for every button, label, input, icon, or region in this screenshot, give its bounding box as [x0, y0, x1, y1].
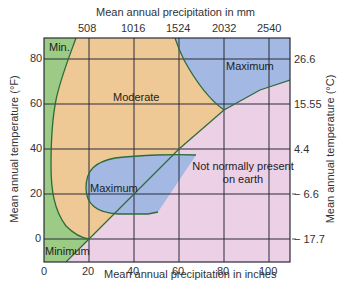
- y-left-axis-title: Mean annual temperature (°F): [8, 69, 20, 229]
- region-label-maximum-upper: Maximum: [226, 60, 274, 73]
- region-label-maximum-middle: Maximum: [90, 182, 138, 195]
- region-label-minimum-lower: Minimum: [45, 245, 90, 258]
- x-top-tick: 508: [78, 22, 96, 34]
- y-right-tick: 4.4: [294, 143, 309, 155]
- x-top-tick: 2540: [257, 22, 281, 34]
- region-label-not-present-line2: on earth: [223, 173, 263, 185]
- y-right-tick: − 17.7: [294, 233, 325, 245]
- x-top-tick: 2032: [212, 22, 236, 34]
- region-label-moderate: Moderate: [113, 91, 159, 104]
- y-right-axis-title: Mean annual temperature (°C): [324, 69, 336, 229]
- x-bottom-tick: 60: [172, 265, 184, 277]
- y-left-tick: 40: [30, 142, 42, 154]
- x-bottom-tick: 80: [217, 265, 229, 277]
- x-top-axis-title: Mean annual precipitation in mm: [96, 6, 255, 18]
- region-label-min: Min.: [49, 41, 70, 54]
- region-label-not-present-line1: Not normally present: [192, 160, 294, 172]
- y-right-tick: − 6.6: [294, 188, 319, 200]
- x-bottom-tick: 40: [127, 265, 139, 277]
- x-bottom-tick: 100: [259, 265, 277, 277]
- x-bottom-tick: 20: [82, 265, 94, 277]
- y-right-tick: 26.6: [294, 53, 315, 65]
- y-left-tick: 60: [30, 97, 42, 109]
- y-left-tick: 0: [35, 232, 41, 244]
- region-label-not-present: Not normally present on earth: [188, 160, 298, 186]
- y-left-tick: 80: [30, 52, 42, 64]
- x-top-tick: 1016: [121, 22, 145, 34]
- x-top-tick: 1524: [166, 22, 190, 34]
- y-right-tick: 15.55: [294, 98, 322, 110]
- y-left-tick: 20: [30, 187, 42, 199]
- x-bottom-tick: 0: [41, 265, 47, 277]
